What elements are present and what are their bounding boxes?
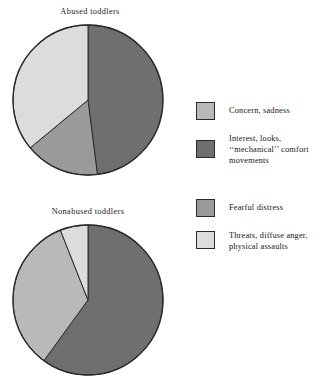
legend-swatch-interest-mechanical xyxy=(196,140,215,158)
pie-chart-figure: Abused toddlers Nonabused toddlers Conce… xyxy=(0,0,336,392)
legend-label-threats-anger-assaults: Threats, diffuse anger, physical assault… xyxy=(229,230,336,252)
pie-chart-nonabused-toddlers: Nonabused toddlers xyxy=(8,206,168,384)
pie-title-abused-toddlers: Abused toddlers xyxy=(8,6,168,18)
pie-canvas-nonabused xyxy=(8,218,168,384)
legend-label-fearful-distress: Fearful distress xyxy=(229,202,336,213)
legend-label-concern-sadness: Concern, sadness xyxy=(229,105,336,116)
legend-swatch-fearful-distress xyxy=(196,199,215,217)
pie-chart-abused-toddlers: Abused toddlers xyxy=(8,6,168,184)
pie-slice xyxy=(88,25,163,174)
pie-svg-abused xyxy=(8,18,168,184)
legend-label-interest-mechanical: Interest, looks, ‘‘mechanical’’ comfort … xyxy=(229,133,336,167)
pie-canvas-abused xyxy=(8,18,168,184)
pie-title-nonabused-toddlers: Nonabused toddlers xyxy=(8,206,168,218)
pie-svg-nonabused xyxy=(8,218,168,384)
legend-swatch-concern-sadness xyxy=(196,102,215,120)
legend-swatch-threats-anger-assaults xyxy=(196,231,215,249)
